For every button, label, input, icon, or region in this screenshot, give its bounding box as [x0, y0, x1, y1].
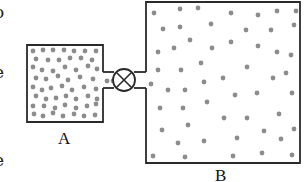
gas-particle — [31, 49, 36, 54]
gas-particle — [235, 136, 240, 141]
gas-particle — [290, 91, 295, 96]
gas-particle — [85, 104, 90, 109]
gas-particle — [231, 154, 236, 159]
gas-particle — [34, 94, 39, 99]
gas-particle — [188, 38, 193, 43]
gas-particle — [83, 49, 88, 54]
gas-particle — [166, 88, 171, 93]
gas-particle — [151, 154, 156, 159]
gas-particle — [49, 86, 54, 91]
gas-particle — [70, 88, 75, 93]
gas-particle — [61, 114, 66, 119]
gas-particle — [40, 68, 45, 73]
gas-particle — [210, 46, 215, 51]
gas-particle — [54, 96, 59, 101]
gas-particle — [62, 48, 67, 53]
gas-particle — [229, 40, 234, 45]
gas-particle — [51, 69, 56, 74]
gas-particle — [178, 7, 183, 12]
gas-particle — [196, 6, 201, 11]
gas-particle — [183, 88, 188, 93]
gas-particle — [91, 77, 96, 82]
container-a-outline — [27, 45, 103, 122]
gas-particle — [64, 94, 69, 99]
gas-particle — [149, 82, 154, 87]
gas-particle — [277, 112, 282, 117]
gas-particle — [222, 116, 227, 121]
gas-particle — [94, 87, 99, 92]
gas-particle — [244, 28, 249, 33]
gas-particle — [178, 25, 183, 30]
gas-particle — [53, 106, 58, 111]
gas-particle — [51, 48, 56, 53]
gas-particle — [57, 58, 62, 63]
gas-particle — [86, 94, 91, 99]
gas-particle — [229, 11, 234, 16]
gas-particle — [95, 97, 100, 102]
gas-particle — [255, 91, 260, 96]
gas-particle — [31, 85, 36, 90]
gas-particle — [221, 76, 226, 81]
gas-particle — [292, 127, 297, 132]
gas-particle — [86, 64, 91, 69]
gas-particle — [63, 65, 68, 70]
gas-particle — [95, 67, 100, 72]
gas-particle — [152, 11, 157, 16]
gas-particle — [233, 93, 238, 98]
gas-particle — [290, 153, 295, 158]
gas-diffusion-diagram — [0, 0, 305, 182]
container-b-label: B — [215, 166, 226, 182]
gas-particle — [179, 68, 184, 73]
gas-particle — [31, 104, 36, 109]
gas-particle — [72, 112, 77, 117]
gas-particle — [172, 46, 177, 51]
gas-particle — [245, 116, 250, 121]
gas-particle — [44, 77, 49, 82]
gas-particle — [262, 129, 267, 134]
gas-particle — [34, 76, 39, 81]
gas-particle — [161, 27, 166, 32]
gas-particle — [56, 74, 61, 79]
gas-particle — [202, 139, 207, 144]
gas-particle — [156, 50, 161, 55]
gas-particle — [260, 151, 265, 156]
gas-particle — [68, 56, 73, 61]
gas-particle — [205, 100, 210, 105]
gas-particle — [41, 48, 46, 53]
gas-particle — [44, 97, 49, 102]
gas-particle — [82, 114, 87, 119]
gas-particle — [199, 61, 204, 66]
gas-particle — [78, 75, 83, 80]
gas-particle — [72, 49, 77, 54]
gas-particle — [40, 88, 45, 93]
gas-particle — [289, 53, 294, 58]
gas-particle — [202, 80, 207, 85]
gas-particle — [32, 112, 37, 117]
gas-particle — [183, 155, 188, 160]
gas-particle — [74, 68, 79, 73]
gas-particle — [51, 111, 56, 116]
gas-particle — [90, 58, 95, 63]
gas-particle — [74, 97, 79, 102]
gas-particle — [63, 103, 68, 108]
gas-particle — [94, 49, 99, 54]
gas-particle — [42, 104, 47, 109]
gas-particle — [275, 50, 280, 55]
gas-particle — [209, 22, 214, 27]
diagram-canvas: o-e..-e A B — [0, 0, 305, 182]
gas-particle — [31, 65, 36, 70]
gas-particle — [256, 13, 261, 18]
gas-particle — [79, 56, 84, 61]
gas-particles-container-b — [149, 6, 299, 160]
gas-particle — [93, 113, 98, 118]
gas-particle — [279, 137, 284, 142]
gas-particle — [74, 106, 79, 111]
gas-particle — [181, 106, 186, 111]
gas-particle — [256, 44, 261, 49]
gas-particle — [292, 23, 297, 28]
gas-particle — [186, 123, 191, 128]
gas-particle — [271, 76, 276, 81]
gas-particle — [245, 65, 250, 70]
gas-particle — [94, 102, 99, 107]
gas-particle — [105, 79, 110, 84]
